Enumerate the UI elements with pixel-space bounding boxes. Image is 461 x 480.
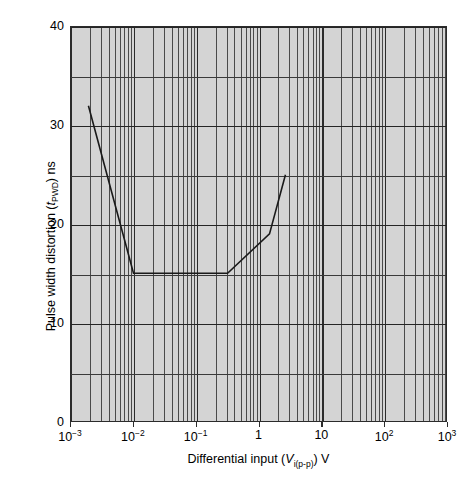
x-axis-title-var: V (285, 452, 293, 466)
plot-area (70, 26, 447, 422)
x-tick-mark (70, 422, 71, 427)
y-axis-title-sub: PWD (50, 182, 60, 202)
x-axis-title-post: ) V (313, 452, 329, 466)
y-axis-title-pre: Pulse width distortion ( (44, 205, 58, 331)
series-line-pulse-width-distortion (88, 106, 285, 273)
x-tick-label: 1 (255, 428, 262, 442)
x-axis-title-sub: i(p-p) (294, 459, 314, 469)
data-curve-svg (71, 27, 446, 421)
y-tick-label: 40 (2, 19, 64, 33)
x-tick-label: 10−1 (184, 428, 208, 444)
x-tick-label: 103 (438, 428, 457, 444)
x-tick-mark (447, 422, 448, 427)
x-tick-mark (133, 422, 134, 427)
x-axis-title: Differential input (Vi(p-p)) V (70, 452, 447, 469)
x-axis-tick-labels: 10−310−210−1110102103 (70, 428, 447, 448)
y-axis-title-var: t (44, 202, 58, 205)
chart-figure: 010203040 10−310−210−1110102103 Differen… (0, 0, 461, 480)
x-tick-label: 10−3 (58, 428, 82, 444)
y-axis-title: Pulse width distortion (tPWD) ns (44, 48, 61, 444)
x-tick-mark (259, 422, 260, 427)
y-axis-title-post: ) ns (44, 161, 58, 182)
x-axis-title-pre: Differential input ( (188, 452, 286, 466)
x-tick-label: 10 (314, 428, 328, 442)
x-tick-mark (321, 422, 322, 427)
x-tick-mark (384, 422, 385, 427)
x-tick-label: 102 (375, 428, 394, 444)
x-tick-label: 10−2 (121, 428, 145, 444)
x-tick-mark (196, 422, 197, 427)
